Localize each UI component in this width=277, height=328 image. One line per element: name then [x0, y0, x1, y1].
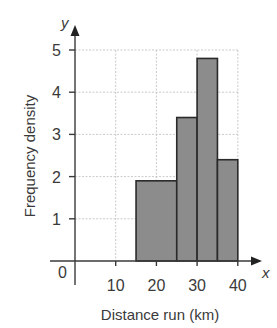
x-axis-letter: x — [261, 264, 270, 281]
x-tick-label: 20 — [148, 277, 166, 294]
y-axis-arrow-icon — [71, 25, 80, 36]
y-tick-label: 5 — [52, 42, 61, 59]
x-tick-label: 10 — [107, 277, 125, 294]
histogram-bar — [217, 160, 237, 261]
y-tick-label: 1 — [52, 211, 61, 228]
y-axis-title: Frequency density — [21, 94, 38, 217]
x-tick-label: 30 — [188, 277, 206, 294]
y-tick-label: 2 — [52, 169, 61, 186]
x-axis-arrow-icon — [251, 257, 262, 266]
histogram-bars — [136, 58, 238, 261]
y-tick-label: 3 — [52, 126, 61, 143]
y-axis-letter: y — [60, 14, 70, 31]
histogram-bar — [136, 181, 177, 261]
x-tick-label: 40 — [229, 277, 247, 294]
origin-label: 0 — [58, 264, 67, 281]
y-tick-label: 4 — [52, 84, 61, 101]
histogram-bar — [177, 118, 197, 261]
histogram-chart: 1234510203040 y x 0 Frequency density Di… — [0, 0, 277, 328]
x-axis-title: Distance run (km) — [101, 306, 219, 323]
histogram-bar — [197, 58, 217, 261]
